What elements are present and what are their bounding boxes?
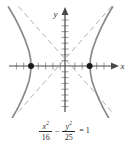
equation-term-1-denominator: 16 — [41, 133, 51, 142]
equation-term-2-exponent: 2 — [69, 120, 72, 126]
x-axis — [9, 63, 119, 70]
y-axis-arrowhead — [62, 7, 69, 15]
equation-term-2-denominator: 25 — [64, 133, 74, 142]
y-axis — [62, 7, 69, 112]
hyperbola-figure: y x x2 16 – y2 25 = 1 — [0, 0, 128, 149]
equation-term-1-exponent: 2 — [46, 120, 49, 126]
equation-term-1-numerator: x2 — [42, 120, 50, 131]
graph-plot-area: y x — [0, 0, 128, 118]
equation-term-1: x2 16 — [39, 120, 52, 142]
y-axis-label: y — [53, 9, 58, 19]
x-axis-arrowhead — [111, 63, 119, 70]
hyperbola-right-branch — [90, 7, 113, 118]
equation-equals-sign: = — [79, 127, 84, 135]
vertex-left-marker — [28, 63, 34, 69]
x-axis-label: x — [120, 61, 125, 71]
equation-caption: x2 16 – y2 25 = 1 — [0, 116, 128, 149]
equation-term-2: y2 25 — [62, 120, 75, 142]
graph-svg: y x — [0, 0, 128, 118]
equation-row: x2 16 – y2 25 = 1 — [38, 116, 90, 142]
vertex-right-marker — [87, 63, 93, 69]
equation-term-2-numerator: y2 — [65, 120, 73, 131]
equation-operator: – — [55, 127, 59, 135]
equation-right-hand-side: 1 — [86, 127, 90, 135]
